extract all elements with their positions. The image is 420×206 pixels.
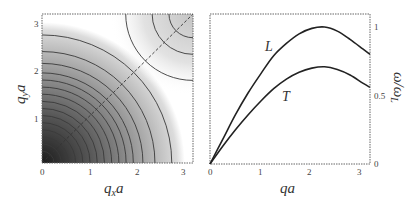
label-T: T [282, 89, 291, 104]
figure: 0 1 2 3 1 2 3 qxa qya L T 0 1 2 3 0 0.5 … [0, 0, 420, 206]
label-L: L [264, 39, 273, 54]
left-y-label: qya [12, 85, 30, 104]
y-tick-0.5: 0.5 [374, 91, 386, 101]
x-tick-1: 1 [258, 167, 263, 177]
left-x-ticks: 0 1 2 3 [40, 167, 186, 177]
right-x-ticks: 0 1 2 3 [208, 167, 362, 177]
x-tick-0: 0 [40, 167, 45, 177]
contour-area [42, 14, 193, 163]
y-tick-3: 3 [34, 19, 39, 29]
y-tick-1: 1 [374, 22, 379, 32]
right-x-label: qa [280, 180, 295, 196]
right-y-ticks: 0 0.5 1 [374, 22, 386, 169]
y-tick-1: 1 [34, 114, 39, 124]
contour-panel: 0 1 2 3 1 2 3 qxa qya [12, 14, 193, 198]
dispersion-panel: L T 0 1 2 3 0 0.5 1 qa ω/ωL [208, 14, 407, 196]
y-tick-0: 0 [374, 159, 379, 169]
x-tick-1: 1 [88, 167, 93, 177]
x-tick-2: 2 [307, 167, 312, 177]
x-tick-3: 3 [357, 167, 362, 177]
left-x-label: qxa [104, 180, 123, 198]
x-tick-2: 2 [135, 167, 140, 177]
x-tick-3: 3 [181, 167, 186, 177]
x-tick-0: 0 [208, 167, 213, 177]
right-y-label: ω/ωL [389, 72, 407, 103]
left-y-ticks: 1 2 3 [34, 19, 39, 124]
y-tick-2: 2 [34, 66, 39, 76]
